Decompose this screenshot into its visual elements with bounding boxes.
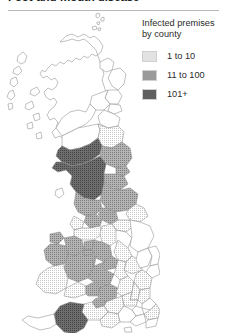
legend-label-high: 101+ bbox=[167, 89, 188, 99]
map-area-isle-of-wight bbox=[124, 327, 132, 332]
legend-item-low: 1 to 10 bbox=[142, 49, 227, 64]
map-container bbox=[0, 12, 160, 333]
map-area-isle-of-man bbox=[55, 188, 64, 198]
map-legend: Infected premises by county 1 to 10 11 t… bbox=[142, 18, 227, 106]
map-area-aberdeenshire bbox=[108, 68, 126, 90]
map-area-shetland bbox=[96, 13, 104, 25]
figure-title: Foot-and-mouth disease bbox=[0, 0, 227, 9]
map-area-dyfed bbox=[36, 264, 68, 294]
legend-item-high: 101+ bbox=[142, 87, 227, 102]
legend-swatch-medium bbox=[142, 70, 157, 81]
figure-foot-and-mouth-map: Foot-and-mouth disease bbox=[0, 0, 227, 333]
legend-title-line2: by county bbox=[142, 29, 227, 40]
map-area-glamorgan bbox=[64, 282, 86, 298]
map-area-anglesey bbox=[50, 232, 64, 244]
legend-label-medium: 11 to 100 bbox=[167, 70, 205, 80]
map-area-inner-hebrides bbox=[25, 87, 42, 139]
map-area-orkney bbox=[92, 26, 101, 31]
legend-label-low: 1 to 10 bbox=[167, 51, 195, 61]
map-svg bbox=[0, 12, 160, 333]
legend-items: 1 to 10 11 to 100 101+ bbox=[142, 49, 227, 102]
legend-item-medium: 11 to 100 bbox=[142, 68, 227, 83]
legend-title-line1: Infected premises bbox=[142, 18, 227, 29]
map-area-outer-hebrides bbox=[7, 52, 27, 110]
legend-swatch-low bbox=[142, 51, 157, 62]
map-area-devon bbox=[54, 302, 88, 333]
figure-title-text: Foot-and-mouth disease bbox=[8, 0, 139, 3]
title-divider bbox=[8, 10, 219, 11]
map-area-cornwall bbox=[22, 314, 56, 330]
legend-swatch-high bbox=[142, 89, 157, 100]
